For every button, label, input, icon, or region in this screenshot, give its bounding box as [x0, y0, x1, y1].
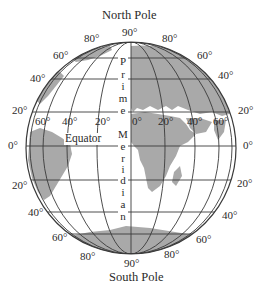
- left-lat-60n: 60°: [53, 50, 68, 61]
- pm-letter: P: [118, 56, 128, 67]
- pm-letter: i: [118, 81, 128, 92]
- pm-letter: n: [118, 211, 128, 222]
- right-lat-40n: 40°: [218, 70, 233, 81]
- pm-letter: i: [118, 187, 128, 198]
- south-pole-label: South Pole: [109, 271, 164, 284]
- top-right-80-label: 80°: [162, 33, 177, 44]
- right-lat-60n: 60°: [197, 50, 212, 61]
- top-left-80-label: 80°: [84, 33, 99, 44]
- right-lat-60s: 60°: [196, 234, 211, 245]
- lon-40w-label: 40°: [62, 116, 77, 127]
- top-90-label: 90°: [122, 27, 137, 38]
- pm-letter: a: [118, 199, 128, 210]
- bottom-90-label: 90°: [124, 258, 139, 269]
- left-lat-20s: 20°: [12, 180, 27, 191]
- pm-letter: d: [118, 175, 128, 186]
- equator-label: Equator: [64, 133, 102, 145]
- right-lat-0: 0°: [243, 140, 253, 151]
- left-lat-60s: 60°: [52, 232, 67, 243]
- pm-letter: M: [118, 129, 128, 140]
- pm-letter: e: [118, 141, 128, 152]
- left-lat-40n: 40°: [30, 73, 45, 84]
- lon-40e-label: 40°: [187, 116, 202, 127]
- bottom-left-80-label: 80°: [80, 251, 95, 262]
- lon-60w-label: 60°: [35, 116, 50, 127]
- right-lat-40s: 40°: [222, 210, 237, 221]
- right-lat-20n: 20°: [238, 105, 253, 116]
- lon-20e-label: 20°: [158, 116, 173, 127]
- right-lat-20s: 20°: [237, 178, 252, 189]
- pm-letter: m: [118, 93, 128, 104]
- left-lat-20n: 20°: [12, 105, 27, 116]
- pm-letter: e: [118, 105, 128, 116]
- north-pole-label: North Pole: [102, 9, 157, 22]
- pm-letter: r: [118, 69, 128, 80]
- bottom-right-80-label: 80°: [164, 249, 179, 260]
- lon-20w-label: 20°: [95, 116, 110, 127]
- left-lat-40s: 40°: [28, 207, 43, 218]
- left-lat-0: 0°: [8, 140, 18, 151]
- lon-60e-label: 60°: [213, 116, 228, 127]
- globe-diagram: [0, 0, 261, 288]
- lon-0-label: 0°: [132, 116, 142, 127]
